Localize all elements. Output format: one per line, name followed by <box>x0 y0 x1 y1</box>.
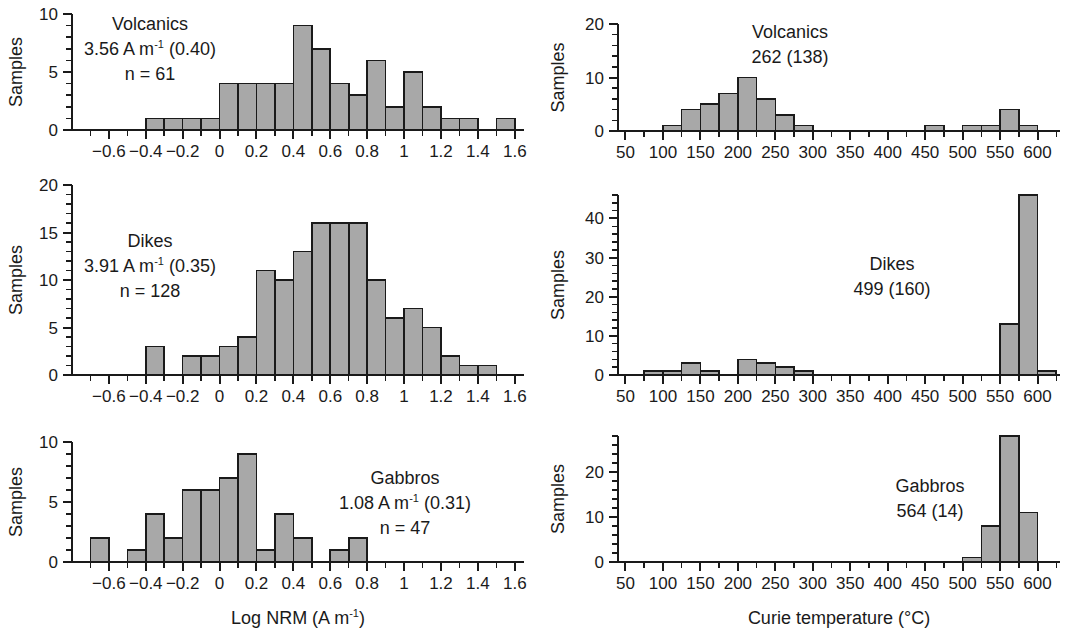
x-tick-label: 0.4 <box>282 142 306 161</box>
figure-bottom-edge <box>0 636 1078 643</box>
histogram-bar <box>700 104 719 131</box>
y-tick-label: 0 <box>49 121 58 140</box>
y-tick-label: 10 <box>39 5 58 24</box>
y-tick-label: 0 <box>595 122 604 141</box>
histogram-bar <box>330 223 348 375</box>
y-tick-label: 0 <box>49 553 58 572</box>
histogram-bar <box>386 318 404 375</box>
y-axis-title: Samples <box>548 464 568 534</box>
bars-group <box>146 223 497 375</box>
x-tick-label: 100 <box>649 574 677 593</box>
histogram-bar <box>330 550 348 562</box>
histogram-bar <box>423 328 441 376</box>
x-tick-label: 450 <box>911 387 939 406</box>
x-tick-label: 50 <box>616 387 635 406</box>
x-tick-label: −0.6 <box>92 387 126 406</box>
x-tick-label: 1.6 <box>503 387 527 406</box>
histogram-bar <box>201 118 219 130</box>
x-tick-label: 500 <box>948 143 976 162</box>
y-axis-title: Samples <box>6 467 26 537</box>
y-tick-label: 10 <box>585 69 604 88</box>
annotation-mean-value: 1.08 A m-1 (0.31) <box>339 492 471 513</box>
x-tick-label: 300 <box>799 143 827 162</box>
histogram-bar <box>127 550 145 562</box>
x-tick-label: 0 <box>215 574 224 593</box>
y-ticks <box>609 24 618 131</box>
x-tick-label: −0.2 <box>166 574 200 593</box>
x-tick-label: −0.4 <box>129 142 163 161</box>
histogram-bar <box>1000 324 1019 375</box>
annotation-rock-type: Gabbros <box>895 476 964 496</box>
y-tick-label: 40 <box>585 209 604 228</box>
histogram-bar <box>238 337 256 375</box>
y-tick-label: 20 <box>585 15 604 34</box>
histogram-bar <box>238 84 256 130</box>
annotation-rock-type: Gabbros <box>370 468 439 488</box>
histogram-bar <box>404 72 422 130</box>
x-tick-label: 1.4 <box>466 142 490 161</box>
histogram-bar <box>256 271 274 376</box>
y-ticks <box>609 436 618 562</box>
x-tick-label: 0 <box>215 142 224 161</box>
x-tick-label: 250 <box>761 387 789 406</box>
histogram-bar <box>256 84 274 130</box>
histogram-bar <box>293 252 311 376</box>
y-ticks <box>609 195 618 375</box>
panel-dikes-nrm: −0.6−0.4−0.200.20.40.60.811.21.41.605101… <box>0 175 540 420</box>
y-tick-label: 5 <box>49 319 58 338</box>
x-tick-label: 1 <box>399 574 408 593</box>
x-tick-label: 0.6 <box>318 142 342 161</box>
y-ticks <box>63 14 72 130</box>
x-tick-label: 600 <box>1023 143 1051 162</box>
x-tick-label: 1.6 <box>503 574 527 593</box>
x-ticks <box>90 375 514 384</box>
histogram-bar <box>441 118 459 130</box>
x-tick-label: 400 <box>874 143 902 162</box>
x-tick-label: −0.2 <box>166 387 200 406</box>
x-tick-label: 550 <box>986 574 1014 593</box>
chart-gabbros-nrm: −0.6−0.4−0.200.20.40.60.811.21.41.60510S… <box>0 420 540 643</box>
x-tick-label: 1 <box>399 387 408 406</box>
x-tick-label: 0.2 <box>245 387 269 406</box>
panel-gabbros-nrm: −0.6−0.4−0.200.20.40.60.811.21.41.60510S… <box>0 420 540 643</box>
y-tick-label: 10 <box>39 271 58 290</box>
histogram-bar <box>275 514 293 562</box>
x-tick-label: 150 <box>686 143 714 162</box>
histogram-bar <box>220 478 238 562</box>
x-tick-label: −0.4 <box>129 574 163 593</box>
histogram-bar <box>312 223 330 375</box>
histogram-bar <box>459 366 477 376</box>
histogram-bar <box>775 115 794 131</box>
y-tick-label: 20 <box>585 463 604 482</box>
y-ticks <box>63 185 72 375</box>
histogram-bar <box>738 78 757 132</box>
y-tick-label: 10 <box>585 508 604 527</box>
histogram-bar <box>220 84 238 130</box>
x-ticks <box>625 131 1056 140</box>
panel-annotation: Dikes3.91 A m-1 (0.35)n = 128 <box>84 231 216 301</box>
x-tick-label: 500 <box>948 387 976 406</box>
x-tick-label: 250 <box>761 143 789 162</box>
annotation-mean-value: 564 (14) <box>896 501 963 521</box>
histogram-bar <box>478 366 496 376</box>
x-tick-label: 550 <box>986 387 1014 406</box>
x-tick-label: 350 <box>836 387 864 406</box>
x-tick-label: 1.4 <box>466 387 490 406</box>
annotation-rock-type: Volcanics <box>752 22 828 42</box>
x-tick-label: −0.6 <box>92 142 126 161</box>
y-axis-title: Samples <box>6 37 26 107</box>
x-tick-label: 300 <box>799 387 827 406</box>
histogram-bar <box>775 367 794 375</box>
y-tick-label: 5 <box>49 493 58 512</box>
panel-gabbros-curie: 5010015020025030035040045050055060001020… <box>540 420 1078 643</box>
annotation-mean-value: 262 (138) <box>751 47 828 67</box>
histogram-bar <box>90 538 108 562</box>
x-tick-label: 1.2 <box>429 387 453 406</box>
histogram-bar <box>367 280 385 375</box>
histogram-bar <box>256 550 274 562</box>
x-tick-label: 400 <box>874 574 902 593</box>
panel-annotation: Dikes499 (160) <box>853 254 930 299</box>
annotation-mean-value: 499 (160) <box>853 279 930 299</box>
x-tick-label: 0.2 <box>245 142 269 161</box>
annotation-rock-type: Volcanics <box>112 14 188 34</box>
